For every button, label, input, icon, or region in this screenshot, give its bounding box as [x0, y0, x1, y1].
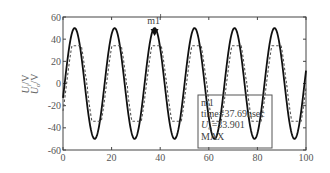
y-tick-label: 60 [51, 12, 61, 23]
x-tick-label: 20 [107, 152, 117, 163]
marker-label: m1 [147, 15, 160, 26]
x-tick-label: 0 [61, 152, 66, 163]
annotation-line-max: MAX [201, 131, 225, 142]
y-tick-label: -20 [48, 100, 61, 111]
annotation-box: m1time=37.69nsecUo=33.901MAX [198, 95, 272, 148]
marker-m1: m1 [147, 14, 160, 36]
y-tick-label: 40 [51, 34, 61, 45]
y-tick-label: 20 [51, 56, 61, 67]
chart: 0204060801006040200-20-40-60 m1 m1time=3… [0, 0, 330, 173]
annotation-line-marker: m1 [201, 97, 214, 108]
x-tick-label: 80 [252, 152, 262, 163]
y-tick-label: -40 [48, 122, 61, 133]
annotation-line-time: time=37.69nsec [201, 108, 265, 119]
x-tick-label: 60 [204, 152, 214, 163]
y-label-uo: Uo/V [29, 73, 42, 95]
y-tick-label: 0 [56, 78, 61, 89]
x-tick-label: 40 [155, 152, 165, 163]
y-axis-label: Ui/VUo/V [20, 73, 42, 95]
y-tick-label: -60 [48, 145, 61, 156]
x-tick-label: 100 [299, 152, 314, 163]
